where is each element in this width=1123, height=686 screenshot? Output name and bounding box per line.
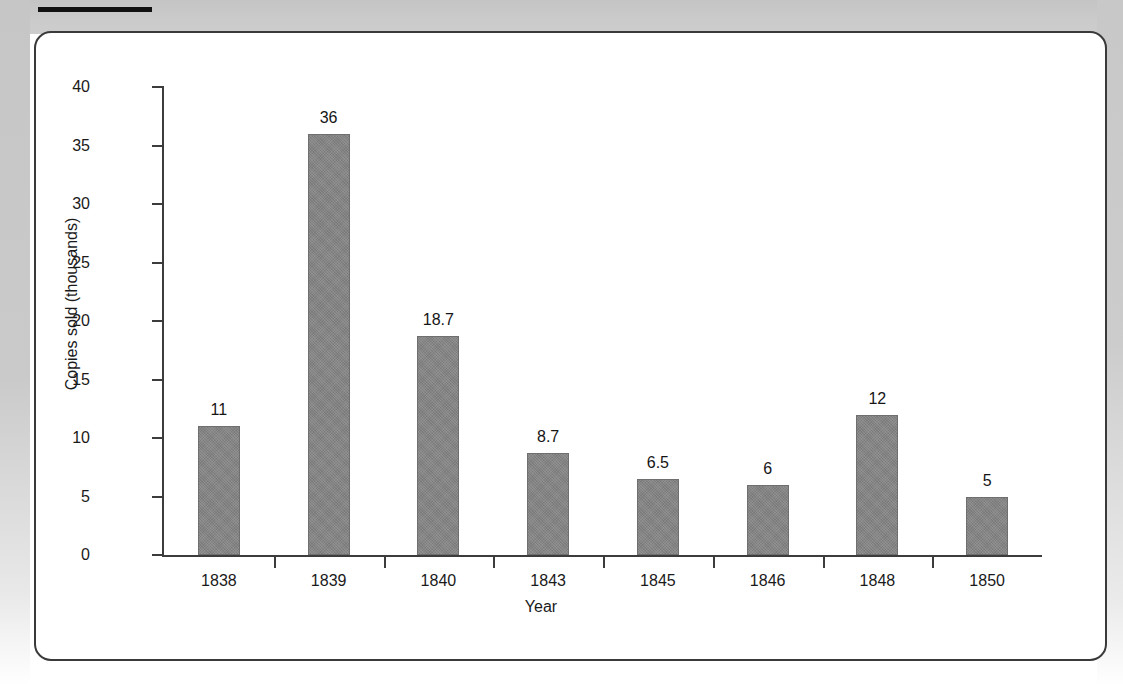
x-axis-tick-label: 1845 bbox=[603, 573, 713, 589]
y-axis-tick bbox=[152, 496, 162, 498]
y-axis-line bbox=[162, 86, 164, 557]
bar bbox=[747, 485, 789, 555]
y-axis-tick bbox=[152, 437, 162, 439]
bar bbox=[856, 415, 898, 555]
x-axis-tick bbox=[274, 557, 276, 568]
x-axis-tick bbox=[823, 557, 825, 568]
figure-frame: Copies sold (thousands) Year 05101520253… bbox=[34, 31, 1107, 661]
bar bbox=[417, 336, 459, 555]
bar bbox=[308, 134, 350, 555]
y-axis-tick-label: 10 bbox=[50, 430, 90, 446]
y-axis-tick-label: 20 bbox=[50, 313, 90, 329]
bar bbox=[637, 479, 679, 555]
x-axis-tick-label: 1848 bbox=[822, 573, 932, 589]
bar-value-label: 8.7 bbox=[503, 429, 593, 445]
x-axis-tick-label: 1846 bbox=[713, 573, 823, 589]
x-axis-tick-label: 1850 bbox=[932, 573, 1042, 589]
x-axis-tick-label: 1840 bbox=[383, 573, 493, 589]
x-axis-tick bbox=[384, 557, 386, 568]
bar-value-label: 6 bbox=[723, 461, 813, 477]
bar-value-label: 18.7 bbox=[393, 312, 483, 328]
x-axis-title: Year bbox=[36, 598, 1046, 616]
bar-chart: Copies sold (thousands) Year 05101520253… bbox=[36, 33, 1109, 663]
x-axis-line bbox=[162, 555, 1042, 557]
y-axis-tick-label: 0 bbox=[50, 547, 90, 563]
bar bbox=[527, 453, 569, 555]
x-axis-tick bbox=[493, 557, 495, 568]
y-axis-tick bbox=[152, 320, 162, 322]
y-axis-tick bbox=[152, 379, 162, 381]
bar bbox=[198, 426, 240, 555]
y-axis-tick-label: 25 bbox=[50, 255, 90, 271]
x-axis-tick-label: 1838 bbox=[164, 573, 274, 589]
y-axis-tick bbox=[152, 262, 162, 264]
y-axis-tick bbox=[152, 86, 162, 88]
x-axis-tick bbox=[932, 557, 934, 568]
page-root: Copies sold (thousands) Year 05101520253… bbox=[0, 0, 1123, 686]
y-axis-tick-label: 35 bbox=[50, 138, 90, 154]
bar-value-label: 11 bbox=[174, 402, 264, 418]
scan-background-top bbox=[0, 0, 1123, 34]
bar-value-label: 12 bbox=[832, 391, 922, 407]
header-rule bbox=[38, 7, 152, 12]
x-axis-tick bbox=[713, 557, 715, 568]
y-axis-tick bbox=[152, 145, 162, 147]
y-axis-tick-label: 30 bbox=[50, 196, 90, 212]
bar-value-label: 36 bbox=[284, 110, 374, 126]
x-axis-tick bbox=[603, 557, 605, 568]
bar-value-label: 6.5 bbox=[613, 455, 703, 471]
bar bbox=[966, 497, 1008, 556]
scan-background-left bbox=[0, 0, 30, 686]
y-axis-tick-label: 5 bbox=[50, 489, 90, 505]
y-axis-tick-label: 40 bbox=[50, 79, 90, 95]
bar-value-label: 5 bbox=[942, 473, 1032, 489]
x-axis-tick-label: 1843 bbox=[493, 573, 603, 589]
y-axis-tick bbox=[152, 203, 162, 205]
y-axis-tick bbox=[152, 554, 162, 556]
x-axis-tick-label: 1839 bbox=[274, 573, 384, 589]
y-axis-tick-label: 15 bbox=[50, 372, 90, 388]
